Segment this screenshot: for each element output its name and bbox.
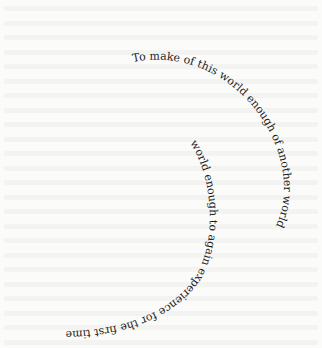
inner-line-text: world enough to again experience for the… [65, 138, 219, 341]
spiral-text-figure: To make of this world enough of another … [0, 0, 322, 348]
book-page: To make of this world enough of another … [0, 0, 322, 348]
spiral-inner-line: world enough to again experience for the… [65, 138, 219, 341]
